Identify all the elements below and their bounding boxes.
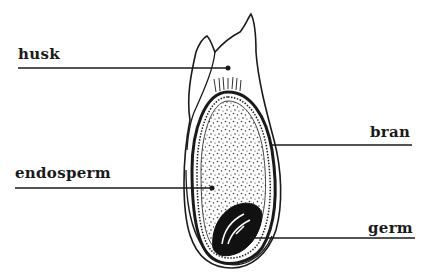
endosperm-pointer-dot bbox=[210, 186, 215, 191]
husk-pointer-dot bbox=[226, 66, 231, 71]
grain-diagram: husk bran endosperm germ bbox=[0, 0, 429, 277]
husk-label: husk bbox=[18, 47, 60, 62]
germ-label: germ bbox=[368, 221, 413, 236]
grain-illustration bbox=[0, 0, 429, 277]
endosperm-label: endosperm bbox=[15, 166, 111, 181]
bran-label: bran bbox=[370, 125, 410, 140]
brush-hairs bbox=[214, 77, 241, 92]
